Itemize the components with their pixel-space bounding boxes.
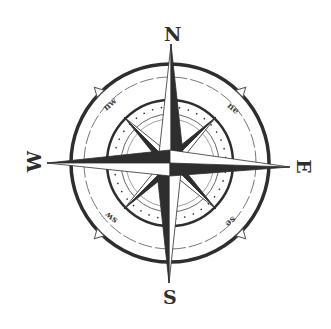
- north-label: N: [164, 25, 181, 44]
- north-point: [158, 44, 184, 163]
- west-label: W: [25, 151, 44, 172]
- cardinal-points: [47, 44, 290, 283]
- east-label: E: [294, 159, 313, 173]
- south-label: S: [163, 288, 177, 307]
- south-point: [156, 163, 182, 283]
- compass-rose: [0, 0, 331, 329]
- east-point: [170, 150, 290, 176]
